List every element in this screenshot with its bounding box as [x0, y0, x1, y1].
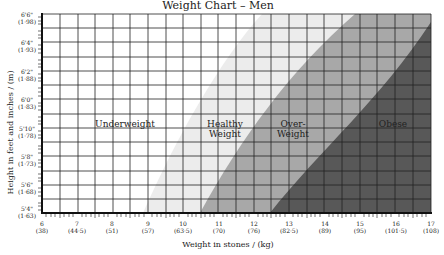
y-tick: 5'6"(1·68): [14, 181, 40, 195]
x-tick: 14(89): [310, 220, 340, 234]
x-tick: 8(51): [97, 220, 127, 234]
x-tick: 17(108): [416, 220, 444, 234]
x-tick: 7(44·5): [62, 220, 92, 234]
x-tick: 12(76): [239, 220, 269, 234]
x-axis-label: Weight in stones / (kg): [0, 240, 436, 249]
x-tick: 16(101·5): [381, 220, 411, 234]
x-tick: 15(95): [345, 220, 375, 234]
x-tick: 9(57): [133, 220, 163, 234]
zone-label-healthy: HealthyWeight: [200, 119, 250, 139]
y-tick: 6'0"(1·83): [14, 96, 40, 110]
y-tick: 6'6"(1·98): [14, 11, 40, 25]
x-tick: 11(70): [204, 220, 234, 234]
zone-label-underweight: Underweight: [80, 119, 170, 129]
zone-label-overweight: Over-Weight: [268, 119, 318, 139]
y-tick: 5'4"(1·63): [14, 205, 40, 219]
zone-label-obese: Obese: [373, 119, 413, 129]
x-tick: 13(82·5): [274, 220, 304, 234]
y-tick: 6'2"(1·88): [14, 68, 40, 82]
y-tick: 5'8"(1·73): [14, 153, 40, 167]
y-tick: 6'4"(1·93): [14, 39, 40, 53]
x-tick: 10(63·5): [168, 220, 198, 234]
x-tick: 6(38): [27, 220, 57, 234]
y-tick: 5'10"(1·78): [14, 125, 40, 139]
